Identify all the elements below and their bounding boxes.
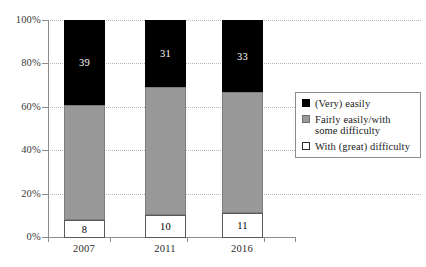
bar-value-label: 33 <box>237 51 248 62</box>
y-tick-80 <box>42 63 49 64</box>
y-tick-20 <box>42 194 49 195</box>
white-swatch-icon <box>302 142 310 150</box>
bar-segment-very-easily-2011[interactable]: 31 <box>145 20 186 87</box>
legend-item-fairly-easily[interactable]: Fairly easily/with some difficulty <box>302 114 415 137</box>
legend-label: (Very) easily <box>315 98 370 110</box>
x-axis-label-2011: 2011 <box>135 243 195 254</box>
y-axis-label-0: 0% <box>3 232 41 242</box>
x-tick-1 <box>110 237 111 242</box>
bar-segment-very-easily-2016[interactable]: 33 <box>222 20 263 92</box>
chart-legend: (Very) easily Fairly easily/with some di… <box>295 92 421 158</box>
bar-segment-fairly-easily-2007[interactable] <box>64 105 105 220</box>
legend-label: With (great) difficulty <box>315 141 410 153</box>
bar-segment-with-great-difficulty-2016[interactable]: 11 <box>222 213 263 238</box>
bar-segment-very-easily-2007[interactable]: 39 <box>64 20 105 105</box>
legend-label: Fairly easily/with some difficulty <box>315 114 415 137</box>
legend-item-very-easily[interactable]: (Very) easily <box>302 98 415 110</box>
bar-segment-with-great-difficulty-2007[interactable]: 8 <box>64 220 105 238</box>
x-tick-4 <box>295 237 296 242</box>
x-tick-3 <box>264 237 265 242</box>
y-axis-line <box>48 20 49 238</box>
bar-value-label: 10 <box>160 221 171 232</box>
x-axis-label-2016: 2016 <box>212 243 272 254</box>
y-axis-label-20: 20% <box>3 189 41 199</box>
gray-swatch-icon <box>302 115 310 123</box>
bar-group-2007[interactable]: 39 8 <box>64 0 105 267</box>
y-axis-label-80: 80% <box>3 58 41 68</box>
stacked-bar-chart: 100% 80% 60% 40% 20% 0% 39 <box>0 0 426 267</box>
bar-segment-with-great-difficulty-2011[interactable]: 10 <box>145 215 186 238</box>
bar-group-2016[interactable]: 33 11 <box>222 0 263 267</box>
x-axis-label-2007: 2007 <box>54 243 114 254</box>
y-tick-60 <box>42 107 49 108</box>
y-axis-label-60: 60% <box>3 102 41 112</box>
bar-segment-fairly-easily-2011[interactable] <box>145 87 186 215</box>
bar-segment-fairly-easily-2016[interactable] <box>222 92 263 213</box>
bar-value-label: 11 <box>237 220 248 231</box>
y-tick-100 <box>42 20 49 21</box>
bar-value-label: 39 <box>79 57 90 68</box>
y-axis-label-40: 40% <box>3 145 41 155</box>
y-tick-40 <box>42 150 49 151</box>
bar-value-label: 8 <box>82 224 87 235</box>
black-swatch-icon <box>302 99 310 107</box>
bar-group-2011[interactable]: 31 10 <box>145 0 186 267</box>
bar-value-label: 31 <box>160 48 171 59</box>
legend-item-with-great-difficulty[interactable]: With (great) difficulty <box>302 141 415 153</box>
x-tick-0 <box>48 237 49 242</box>
y-axis-label-100: 100% <box>3 15 41 25</box>
x-tick-2 <box>187 237 188 242</box>
